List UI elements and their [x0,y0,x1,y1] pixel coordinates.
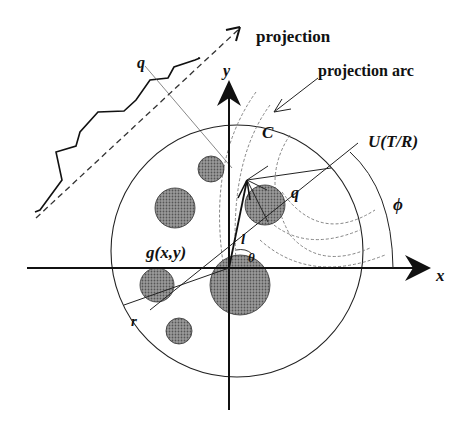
q-label-top: q [137,54,145,72]
projection-label: projection [256,27,331,46]
blob [166,318,192,344]
u-label: U(T/R) [368,132,418,151]
projection-arc-pointer [274,78,318,112]
c-label: C [262,123,274,142]
projection-arc-label: projection arc [318,62,414,80]
q-label-mid: q [291,184,299,202]
blob [198,156,224,182]
blob [210,255,270,315]
phi-label: ϕ [393,195,403,214]
blob [155,188,195,228]
blob [140,268,174,302]
y-axis-label: y [221,62,231,80]
r-label: r [131,313,137,329]
projection-diagram: projection projection arc q y x C U(T/R)… [0,0,471,425]
g-label: g(x,y) [145,243,186,262]
theta-label: θ [248,250,255,265]
q-segment [247,168,331,180]
blob [245,185,285,225]
x-axis-label: x [435,266,445,285]
